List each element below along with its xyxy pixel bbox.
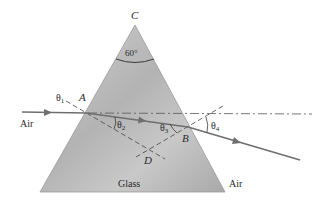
apex-label-c: C — [131, 9, 139, 21]
glass-label: Glass — [118, 178, 140, 189]
emergent-ray-arrow-icon — [232, 137, 241, 144]
theta1-subscript: 1 — [61, 97, 65, 105]
point-a-label: A — [78, 91, 86, 103]
theta4-arc — [206, 117, 208, 132]
theta3-subscript: 3 — [165, 127, 169, 135]
incident-ray — [22, 112, 86, 113]
incident-ray-arrow-icon — [44, 109, 52, 116]
theta1-label: θ1 — [56, 92, 65, 105]
point-d-label: D — [143, 154, 152, 166]
theta4-subscript: 4 — [216, 125, 220, 133]
air-right-label: Air — [229, 178, 243, 189]
air-left-label: Air — [20, 118, 34, 129]
theta2-subscript: 2 — [122, 124, 126, 132]
prism-refraction-diagram: C 60° θ1 A Air θ2 θ3 B θ4 D Glass Air — [0, 0, 326, 203]
point-b-label: B — [182, 132, 189, 144]
apex-angle-label: 60° — [125, 48, 138, 58]
theta4-label: θ4 — [211, 120, 220, 133]
